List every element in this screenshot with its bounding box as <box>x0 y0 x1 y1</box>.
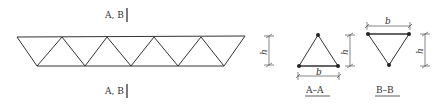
section-mark-label-bottom: A, B <box>104 86 124 96</box>
section-a-height-label: h <box>340 49 350 55</box>
section-b-title: B–B <box>376 85 394 95</box>
web-diagonals <box>17 36 245 66</box>
chord-node <box>366 32 370 36</box>
chord-node <box>407 32 411 36</box>
section-a-title: A–A <box>305 85 324 95</box>
section-mark-label-top: A, B <box>104 10 124 20</box>
chord-node <box>297 64 301 68</box>
chord-node <box>336 64 340 68</box>
section-a-a: h b A–A <box>296 33 355 96</box>
section-b-width-label: b <box>385 16 391 26</box>
section-mark-bottom: A, B <box>104 84 127 98</box>
section-a-triangle <box>299 35 338 66</box>
chord-node <box>387 63 391 67</box>
chord-node <box>316 33 320 37</box>
section-b-b: b h B–B <box>365 16 430 96</box>
elevation-height-dimension: h <box>259 34 274 67</box>
truss-elevation <box>17 36 245 66</box>
section-a-width-label: b <box>316 67 322 77</box>
section-mark-top: A, B <box>104 8 127 22</box>
section-b-triangle <box>368 34 409 65</box>
section-b-height-label: h <box>415 48 425 54</box>
truss-diagram: A, B A, B h h b A–A <box>0 0 439 108</box>
height-label: h <box>259 49 269 55</box>
top-chord <box>17 36 245 37</box>
